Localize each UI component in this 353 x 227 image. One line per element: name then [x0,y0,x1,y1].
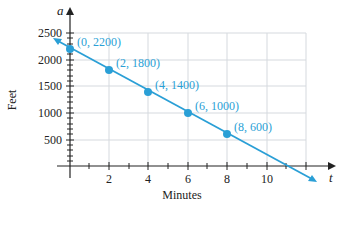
chart: 500 1000 1500 2000 2500 2 4 6 8 10 a t F… [0,0,353,227]
y-tick-label: 1500 [38,79,62,93]
data-point [66,45,74,53]
data-point [105,66,113,74]
x-tick-label: 4 [145,172,151,186]
gridlines [70,33,306,166]
x-tick-label: 6 [185,172,191,186]
y-tick-label: 2000 [38,53,62,67]
y-axis-variable: a [57,3,64,18]
x-tick-label: 10 [261,172,273,186]
y-tick-label: 1000 [38,106,62,120]
y-axis-title: Feet [5,89,19,110]
point-label: (4, 1400) [155,78,199,92]
data-point [144,88,152,96]
data-point [223,130,231,138]
y-tick-label: 500 [44,133,62,147]
point-label: (2, 1800) [116,56,160,70]
point-label: (6, 1000) [195,99,239,113]
x-axis-title: Minutes [162,188,202,202]
y-axis-arrow-icon [66,7,74,15]
y-tick-label: 2500 [38,26,62,40]
data-point [184,109,192,117]
point-label: (0, 2200) [77,35,121,49]
x-axis-variable: t [329,170,333,185]
x-tick-label: 2 [106,172,112,186]
point-label: (8, 600) [234,120,272,134]
point-labels: (0, 2200) (2, 1800) (4, 1400) (6, 1000) … [77,35,272,134]
x-tick-labels: 2 4 6 8 10 [106,172,273,186]
x-tick-label: 8 [224,172,230,186]
y-axis [66,7,74,178]
x-axis-arrow-icon [328,162,336,170]
